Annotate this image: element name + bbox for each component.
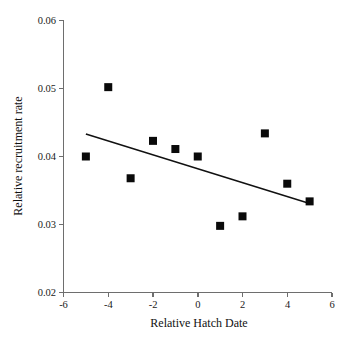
x-tick-label-6: 6 xyxy=(329,299,334,310)
x-tick-label-4: 2 xyxy=(240,299,245,310)
y-tick-label-0: 0.02 xyxy=(38,287,56,298)
data-point-marker xyxy=(127,174,135,182)
data-point-marker xyxy=(239,212,247,220)
x-tick-label-1: -4 xyxy=(104,299,113,310)
data-point-marker xyxy=(82,153,90,161)
data-point-marker xyxy=(283,180,291,188)
y-axis-ticks: 0.02 0.03 0.04 0.05 0.06 xyxy=(38,15,64,298)
figure-caption-fragment xyxy=(0,332,350,341)
regression-trend-line xyxy=(86,134,310,203)
data-point-marker xyxy=(149,137,157,145)
data-point-marker xyxy=(171,145,179,153)
chart-canvas: 0.02 0.03 0.04 0.05 0.06 -6 -4 -2 0 2 4 … xyxy=(0,0,350,341)
y-tick-label-2: 0.04 xyxy=(38,151,57,162)
y-tick-label-1: 0.03 xyxy=(38,219,56,230)
x-tick-label-5: 4 xyxy=(285,299,291,310)
data-series-layer xyxy=(82,83,314,230)
x-axis-title: Relative Hatch Date xyxy=(150,316,247,330)
y-tick-label-4: 0.06 xyxy=(38,15,56,26)
data-point-marker xyxy=(261,129,269,137)
data-point-marker xyxy=(306,197,314,205)
data-point-marker xyxy=(194,153,202,161)
x-axis-ticks: -6 -4 -2 0 2 4 6 xyxy=(59,293,335,311)
x-tick-label-3: 0 xyxy=(195,299,200,310)
data-point-marker xyxy=(216,222,224,230)
y-tick-label-3: 0.05 xyxy=(38,83,56,94)
data-point-marker xyxy=(104,83,112,91)
x-tick-label-0: -6 xyxy=(59,299,68,310)
data-point-markers xyxy=(82,83,314,230)
y-axis-title: Relative recruitment rate xyxy=(11,96,25,215)
x-tick-label-2: -2 xyxy=(149,299,158,310)
scatter-plot-figure: 0.02 0.03 0.04 0.05 0.06 -6 -4 -2 0 2 4 … xyxy=(0,0,350,341)
